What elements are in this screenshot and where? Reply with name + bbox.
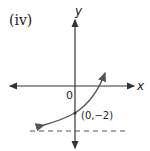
origin-label: 0 [66, 89, 73, 102]
graph-figure: (iv) y x 0 (0,−2) [0, 0, 150, 151]
y-axis-label: y [75, 4, 82, 18]
point-label: (0,−2) [81, 110, 113, 121]
x-axis-label: x [137, 79, 144, 93]
part-label: (iv) [9, 12, 32, 28]
intercept-point [73, 111, 76, 114]
